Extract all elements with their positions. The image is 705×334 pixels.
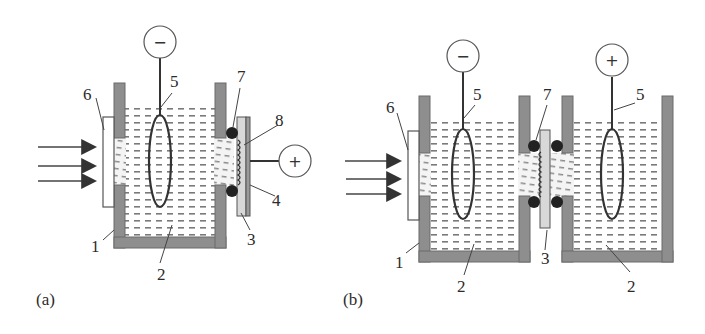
left-opening-a — [114, 138, 126, 185]
light-arrows-b — [345, 161, 399, 194]
oring-bottom-right-b — [551, 196, 563, 208]
callout-5-a: 5 — [170, 72, 179, 91]
callout-7-a: 7 — [237, 67, 246, 86]
panel-label-a: (a) — [36, 290, 55, 309]
optical-window-a — [103, 117, 114, 207]
svg-text:+: + — [605, 51, 618, 70]
light-arrows-a — [38, 147, 94, 181]
membrane-b — [540, 130, 550, 228]
positive-terminal-a: + — [279, 145, 311, 177]
callout-4-a: 4 — [272, 191, 281, 210]
diagram-canvas: − + 6 5 7 8 4 3 1 2 ( — [0, 0, 705, 334]
svg-text:−: − — [456, 47, 469, 66]
svg-text:+: + — [288, 152, 301, 171]
left-opening-b — [419, 153, 431, 196]
oring-top-a — [226, 127, 238, 139]
negative-terminal-b: − — [447, 40, 479, 72]
callout-3-b: 3 — [541, 249, 550, 268]
optical-window-b — [408, 131, 419, 220]
oring-top-left-b — [528, 140, 540, 152]
middle-opening-b-right — [547, 153, 574, 196]
callout-1-a: 1 — [91, 237, 100, 256]
callout-2-a: 2 — [157, 265, 166, 284]
callout-5-b-left: 5 — [473, 85, 482, 104]
oring-top-right-b — [551, 140, 563, 152]
callout-6-a: 6 — [83, 85, 92, 104]
positive-terminal-b: + — [596, 44, 628, 76]
panel-a: − + 6 5 7 8 4 3 1 2 ( — [36, 26, 311, 309]
callout-2-b-right: 2 — [627, 277, 636, 296]
callout-3-a: 3 — [247, 230, 256, 249]
back-contact-a — [246, 117, 250, 216]
right-opening-a — [214, 138, 234, 185]
callout-6-b: 6 — [386, 98, 395, 117]
callout-2-b-left: 2 — [457, 277, 466, 296]
callout-7-b: 7 — [543, 85, 552, 104]
callout-5-b-right: 5 — [636, 85, 645, 104]
panel-b: − + 6 5 7 5 3 1 — [343, 40, 673, 309]
callout-1-b: 1 — [395, 253, 404, 272]
svg-text:−: − — [153, 33, 166, 52]
callout-8-a: 8 — [275, 111, 284, 130]
panel-label-b: (b) — [343, 290, 363, 309]
oring-bottom-left-b — [528, 196, 540, 208]
negative-terminal-a: − — [144, 26, 176, 58]
oring-bottom-a — [226, 185, 238, 197]
membrane-a — [237, 117, 246, 216]
